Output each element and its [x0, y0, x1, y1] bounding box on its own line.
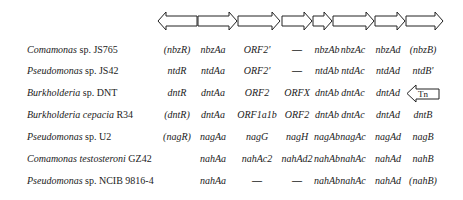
gene-label: —	[292, 41, 302, 59]
gene-label: nagAd	[375, 128, 401, 146]
organism-strain: GZ42	[128, 153, 151, 164]
gene-label: —	[292, 62, 302, 80]
organism-genus: Pseudomonas	[27, 175, 83, 186]
gene-label: nahB	[412, 150, 433, 168]
gene-arrow-right-icon	[406, 12, 443, 30]
gene-arrow-right-icon	[313, 12, 332, 30]
gene-label: nahAd2	[281, 150, 312, 168]
gene-label: ORFX	[284, 84, 310, 102]
gene-label: nahAd	[375, 150, 401, 168]
gene-label: nahAa	[200, 150, 226, 168]
organism-strain: sp. U2	[85, 131, 111, 142]
gene-label: —	[292, 172, 302, 190]
gene-label: ntdB'	[412, 62, 433, 80]
gene-label: dntAa	[201, 84, 225, 102]
organism-strain: sp. JS765	[80, 44, 118, 55]
gene-label: nahAc	[340, 172, 366, 190]
gene-label: ntdAd	[376, 62, 400, 80]
organism-name: Comamonas sp. JS765	[27, 41, 118, 59]
organism-name: Comamonas testosteroni GZ42	[27, 150, 152, 168]
gene-label: dntAa	[201, 106, 225, 124]
gene-arrow-left-icon	[158, 12, 197, 30]
gene-label: nahAc2	[242, 150, 273, 168]
gene-label: nahAd	[375, 172, 401, 190]
gene-label: dntAc	[341, 106, 364, 124]
gene-label: ntdAa	[201, 62, 225, 80]
organism-name: Pseudomonas sp. NCIB 9816-4	[27, 172, 154, 190]
gene-label: nahAc	[340, 150, 366, 168]
gene-label: nbzAa	[201, 41, 226, 59]
organism-strain: R34	[116, 109, 133, 120]
gene-label: dntAd	[376, 106, 400, 124]
organism-row: Burkholderia sp. DNTdntRdntAaORF2ORFXdnt…	[0, 84, 463, 102]
gene-label: (nbzR)	[164, 41, 191, 59]
gene-label: nahAb	[314, 172, 340, 190]
organism-row: Comamonas testosteroni GZ42nahAanahAc2na…	[0, 150, 463, 168]
organism-genus: Comamonas testosteroni	[27, 153, 126, 164]
gene-label: nahAa	[200, 172, 226, 190]
gene-label: ntdR	[168, 62, 187, 80]
organism-genus: Comamonas	[27, 44, 77, 55]
organism-genus: Pseudomonas	[27, 131, 83, 142]
gene-label: nagAb	[314, 128, 340, 146]
organism-row: Pseudomonas sp. U2(nagR)nagAanagGnagHnag…	[0, 128, 463, 146]
gene-label: dntAb	[315, 84, 339, 102]
gene-arrow-right-icon	[198, 12, 237, 30]
gene-label: dntB	[414, 106, 433, 124]
gene-label: nbzAc	[341, 41, 365, 59]
organism-name: Pseudomonas sp. U2	[27, 128, 111, 146]
gene-label: dntAd	[376, 84, 400, 102]
organism-row: Comamonas sp. JS765(nbzR)nbzAaORF2'—nbzA…	[0, 41, 463, 59]
organism-strain: sp. DNT	[83, 87, 117, 98]
gene-arrow-right-icon	[238, 12, 280, 30]
gene-arrow-map	[0, 0, 463, 45]
gene-label: nbzAb	[315, 41, 340, 59]
gene-label: nbzAd	[376, 41, 401, 59]
organism-row: Burkholderia cepacia R34(dntR)dntAaORF1a…	[0, 106, 463, 124]
organism-genus: Burkholderia cepacia	[27, 109, 114, 120]
gene-label: (nahB)	[409, 172, 437, 190]
organism-strain: sp. NCIB 9816-4	[85, 175, 154, 186]
organism-name: Burkholderia cepacia R34	[27, 106, 133, 124]
organism-genus: Pseudomonas	[27, 65, 83, 76]
organism-genus: Burkholderia	[27, 87, 80, 98]
gene-label: nahAb	[314, 150, 340, 168]
organism-strain: sp. JS42	[85, 65, 118, 76]
gene-label: ORF1a1b	[237, 106, 276, 124]
organism-row: Pseudomonas sp. JS42ntdRntdAaORF2'—ntdAb…	[0, 62, 463, 80]
gene-arrow-right-icon	[333, 12, 374, 30]
gene-label: ORF2'	[244, 41, 271, 59]
gene-label: ORF2	[285, 106, 309, 124]
gene-label: —	[252, 172, 262, 190]
gene-label: ntdAc	[341, 62, 364, 80]
gene-label: dntR	[168, 84, 187, 102]
gene-label: nagH	[286, 128, 308, 146]
gene-label: (nbzB)	[410, 41, 437, 59]
organism-name: Burkholderia sp. DNT	[27, 84, 117, 102]
gene-label: ntdAb	[315, 62, 339, 80]
gene-label: nagG	[246, 128, 268, 146]
gene-arrow-right-icon	[282, 12, 312, 30]
gene-label: (dntR)	[164, 106, 190, 124]
gene-label: nagB	[412, 128, 433, 146]
gene-arrow-right-icon	[375, 12, 405, 30]
gene-label: (nagR)	[163, 128, 191, 146]
gene-label: ORF2	[245, 84, 269, 102]
gene-label: dntAb	[315, 106, 339, 124]
organism-name: Pseudomonas sp. JS42	[27, 62, 118, 80]
organism-row: Pseudomonas sp. NCIB 9816-4nahAa——nahAbn…	[0, 172, 463, 190]
gene-label: nagAa	[200, 128, 226, 146]
transposon-label: Tn	[418, 85, 428, 103]
gene-label: ORF2'	[244, 62, 271, 80]
gene-label: dntAc	[341, 84, 364, 102]
gene-label: nagAc	[340, 128, 366, 146]
